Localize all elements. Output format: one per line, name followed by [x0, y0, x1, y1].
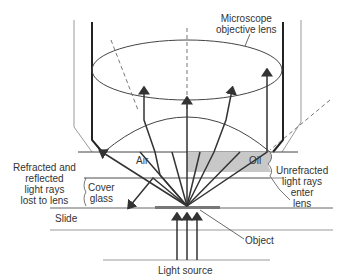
- label-slide: Slide: [55, 213, 77, 224]
- microscope-diagram: [0, 0, 347, 280]
- label-line: reflected: [13, 173, 76, 184]
- label-line: light rays: [276, 176, 328, 187]
- label-air: Air: [136, 155, 148, 166]
- label-refracted-rays: Refracted and reflected light rays lost …: [13, 162, 76, 206]
- label-object: Object: [245, 235, 274, 246]
- label-line: lost to lens: [13, 195, 76, 206]
- label-objective-lens: Microscope objective lens: [216, 13, 277, 35]
- label-line: enter: [276, 187, 328, 198]
- label-light-source: Light source: [158, 265, 212, 276]
- label-line: Cover: [88, 182, 115, 193]
- label-line: Refracted and: [13, 162, 76, 173]
- label-line: lens: [276, 198, 328, 209]
- label-unrefracted-rays: Unrefracted light rays enter lens: [276, 165, 328, 209]
- label-line: light rays: [13, 184, 76, 195]
- label-line: objective lens: [216, 24, 277, 35]
- label-cover-glass: Cover glass: [88, 182, 115, 204]
- label-oil: Oil: [249, 155, 261, 166]
- label-line: Microscope: [216, 13, 277, 24]
- label-line: glass: [88, 193, 115, 204]
- label-line: Unrefracted: [276, 165, 328, 176]
